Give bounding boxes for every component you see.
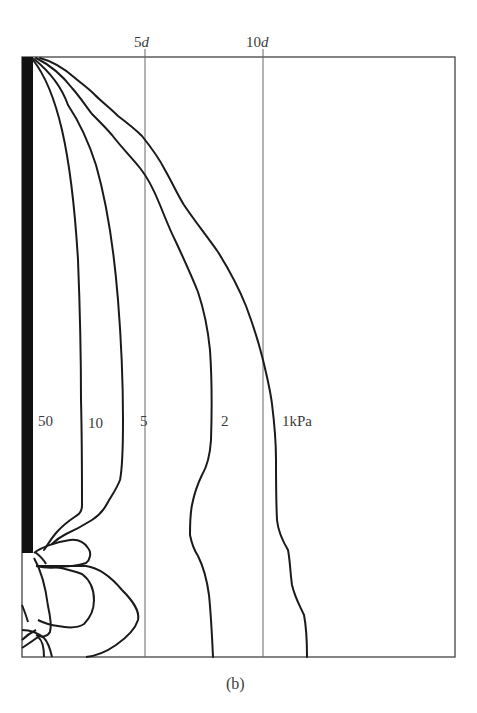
figure-caption: (b) bbox=[226, 675, 245, 693]
tip-lobe-left-edge bbox=[22, 605, 28, 622]
tip-lobe-upper bbox=[34, 540, 90, 568]
reference-label-10d: 10d bbox=[246, 35, 269, 50]
contour-label-1kpa: 1kPa bbox=[282, 414, 312, 429]
reference-label-5d: 5d bbox=[134, 35, 149, 50]
contour-diagram bbox=[0, 0, 477, 713]
reference-label-5d-unit: d bbox=[142, 34, 150, 50]
tip-lobe-lower-2 bbox=[22, 637, 44, 657]
reference-label-5d-number: 5 bbox=[134, 34, 142, 50]
reference-label-10d-number: 10 bbox=[246, 34, 261, 50]
contour-50kpa bbox=[33, 60, 82, 550]
pile bbox=[22, 57, 33, 553]
contour-label-2: 2 bbox=[221, 414, 229, 429]
contour-label-10: 10 bbox=[88, 416, 103, 431]
contour-lines bbox=[33, 58, 307, 657]
contour-label-5: 5 bbox=[140, 414, 148, 429]
reference-label-10d-unit: d bbox=[261, 34, 269, 50]
tip-contours bbox=[22, 540, 138, 657]
contour-label-50: 50 bbox=[38, 414, 53, 429]
